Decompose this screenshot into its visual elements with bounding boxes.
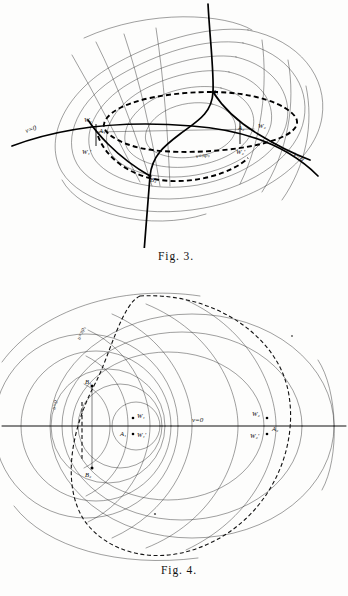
- figure-3-caption: Fig. 3.: [0, 250, 348, 262]
- fig4-orthogonal-arc-family: [84, 300, 276, 550]
- label-u-equals-pi-rho: u=πρ₀: [75, 325, 86, 340]
- label-point-b1: B₁: [212, 88, 218, 95]
- fig3-dashdot-lower-arc: [98, 136, 248, 181]
- label-point-w1-prime: W₁': [82, 148, 92, 155]
- label-point-w2: W₂: [258, 122, 266, 129]
- fig4-open-outer-arcs: [2, 293, 334, 560]
- fig4-labels: u=πρ₀ u=0 v=0 B₁ B₂ W₁ A₁ W₁' W₂ A₂ W₂': [50, 325, 279, 478]
- label-point-b2: B₂: [150, 176, 157, 183]
- fig3-s-curve-left-branch: [88, 120, 150, 176]
- fig4-node-marks: [91, 335, 293, 515]
- fig3-labels: v=0 v=0 v=πρ₀ W₁ A₁ W₁' A₂ W₂ W₂' B₁ B₂: [24, 88, 306, 183]
- label-point-b2: B₂: [85, 471, 92, 478]
- label-point-a1: A₁: [119, 430, 126, 437]
- fig3-outer-oval-family: [55, 29, 323, 212]
- label-point-a2: A₂: [271, 425, 279, 432]
- fig3-v0-heavy-line: [12, 124, 318, 176]
- label-u-equals-zero: u=0: [50, 399, 59, 410]
- label-point-a1: A₁: [98, 127, 105, 134]
- label-v-equals-zero: v=0: [192, 416, 204, 424]
- label-v-equals-zero-right: v=0: [292, 150, 306, 164]
- label-point-w2-prime: W₂': [250, 432, 260, 439]
- figure-3-drawing: v=0 v=0 v=πρ₀ W₁ A₁ W₁' A₂ W₂ W₂' B₁ B₂: [0, 0, 348, 248]
- figure-plate-page: v=0 v=0 v=πρ₀ W₁ A₁ W₁' A₂ W₂ W₂' B₁ B₂ …: [0, 0, 348, 596]
- label-point-w1: W₁: [137, 412, 145, 419]
- figure-4-drawing: u=πρ₀ u=0 v=0 B₁ B₂ W₁ A₁ W₁' W₂ A₂ W₂': [0, 290, 348, 562]
- figure-4-caption: Fig. 4.: [0, 564, 348, 576]
- figure-3: v=0 v=0 v=πρ₀ W₁ A₁ W₁' A₂ W₂ W₂' B₁ B₂ …: [0, 0, 348, 290]
- fig3-meridian-arcs: [72, 28, 309, 200]
- label-point-w2-prime: W₂': [236, 148, 246, 155]
- fig3-node-marks: [96, 90, 240, 177]
- label-point-w2: W₂: [252, 410, 260, 417]
- label-v-equals-pi-rho: v=πρ₀: [195, 151, 209, 159]
- label-point-w1: W₁: [84, 116, 92, 123]
- label-v-equals-zero-left: v=0: [24, 124, 38, 135]
- label-point-b1: B₁: [85, 378, 91, 385]
- label-point-w1-prime: W₁': [137, 431, 147, 438]
- figure-4: u=πρ₀ u=0 v=0 B₁ B₂ W₁ A₁ W₁' W₂ A₂ W₂' …: [0, 290, 348, 596]
- label-point-a2: A₂: [237, 124, 245, 131]
